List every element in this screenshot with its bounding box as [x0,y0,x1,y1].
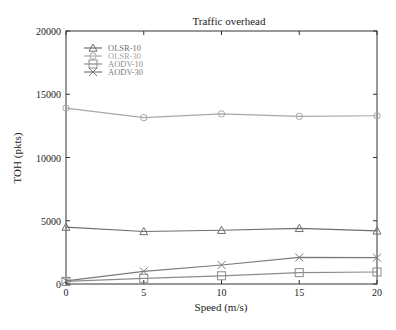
series-olsr-10 [62,223,381,235]
legend-label: AODV-30 [108,67,143,77]
x-tick-label: 10 [217,287,227,298]
plot-series [62,105,381,286]
x-tick-label: 0 [64,287,69,298]
y-tick-label: 15000 [36,89,61,100]
series-line [66,227,377,231]
legend: OLSR-10OLSR-30AODV-10AODV-30 [84,43,143,77]
x-tick-label: 5 [141,287,146,298]
y-tick-label: 20000 [36,26,61,37]
x-tick-label: 20 [372,287,382,298]
y-tick-label: 0 [56,279,61,290]
y-axis-label: TOH (pkts) [11,132,24,183]
y-tick-label: 5000 [41,216,61,227]
series-olsr-30 [63,105,380,121]
x-axis-label: Speed (m/s) [195,301,248,314]
chart-title: Traffic overhead [192,15,266,27]
y-tick-label: 10000 [36,153,61,164]
traffic-overhead-chart: Traffic overhead 05101520050001000015000… [0,0,396,330]
x-tick-label: 15 [294,287,304,298]
series-line [66,257,377,280]
series-line [66,108,377,117]
